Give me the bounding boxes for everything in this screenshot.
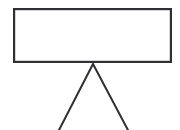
figure-canvas xyxy=(0,0,180,130)
panel-rectangle xyxy=(14,9,171,62)
stand-inverted-v xyxy=(58,64,129,130)
line-drawing xyxy=(0,0,180,130)
